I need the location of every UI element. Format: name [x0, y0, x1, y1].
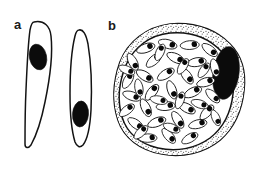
- spindle-cell-right: [70, 30, 91, 147]
- panel-label-b: b: [108, 18, 116, 33]
- panel-a: a: [14, 17, 91, 148]
- figure-root: a b: [0, 0, 253, 174]
- cell-membrane-outline: [25, 22, 52, 148]
- parasite-life-stage-diagram: a b: [0, 0, 253, 174]
- panel-b: b: [108, 18, 244, 155]
- crescent-cell-left: [25, 22, 52, 148]
- panel-label-a: a: [14, 17, 22, 32]
- cell-membrane-outline: [70, 30, 91, 147]
